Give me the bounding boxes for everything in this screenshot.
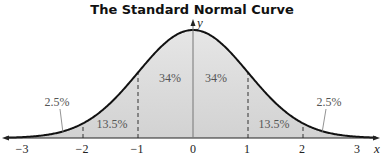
normal-curve-plot: y x −3 −2 −1 0 1 2 3 2.5% 13.5% 34% 34% … bbox=[0, 0, 384, 158]
tick-label: −1 bbox=[131, 142, 144, 156]
region-label-right-mid: 13.5% bbox=[259, 117, 290, 131]
region-label-right-tail: 2.5% bbox=[317, 95, 342, 109]
region-label-right-center: 34% bbox=[205, 71, 227, 85]
y-axis-label: y bbox=[195, 15, 203, 30]
region-label-left-mid: 13.5% bbox=[97, 117, 128, 131]
tick-label: 2 bbox=[299, 142, 305, 156]
x-axis-right-arrow-icon bbox=[373, 136, 380, 141]
region-label-left-center: 34% bbox=[159, 71, 181, 85]
y-axis-arrow-icon bbox=[191, 19, 196, 26]
x-axis-left-arrow-icon bbox=[2, 136, 9, 141]
tick-label: 0 bbox=[190, 142, 196, 156]
x-axis-label: x bbox=[373, 141, 380, 156]
tick-label: −3 bbox=[16, 142, 29, 156]
region-label-left-tail: 2.5% bbox=[45, 95, 70, 109]
tick-label: 3 bbox=[354, 142, 360, 156]
tick-label: −2 bbox=[76, 142, 89, 156]
tick-label: 1 bbox=[244, 142, 250, 156]
